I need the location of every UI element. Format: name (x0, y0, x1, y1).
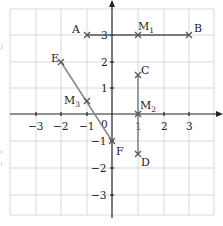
svg-text:−1: −1 (79, 120, 94, 132)
y-axis-arrow-icon (109, 0, 115, 7)
point-labels: A M1 B C M2 D E M3 F (51, 20, 202, 169)
label-m1: M1 (138, 20, 154, 35)
svg-text:2: 2 (161, 120, 168, 132)
svg-text:−3: −3 (28, 120, 43, 132)
svg-text:1: 1 (101, 82, 108, 94)
svg-text:3: 3 (186, 120, 193, 132)
edge-artifacts (1, 44, 3, 166)
point-markers (58, 32, 192, 157)
label-f: F (116, 145, 124, 158)
coordinate-plane: −3 −2 −1 0 1 2 3 3 2 1 −1 −2 −3 A M1 B C (0, 0, 223, 226)
label-b: B (194, 22, 202, 35)
svg-text:−3: −3 (91, 189, 106, 201)
svg-text:−2: −2 (53, 120, 68, 132)
x-axis-arrow-icon (216, 111, 223, 117)
svg-text:−1: −1 (91, 135, 106, 147)
label-m2: M2 (140, 99, 156, 114)
label-d: D (141, 156, 150, 169)
label-a: A (71, 23, 81, 36)
y-tick-labels: 3 2 1 −1 −2 −3 (91, 29, 108, 201)
x-tick-labels: −3 −2 −1 0 1 2 3 (28, 118, 193, 132)
segments (61, 35, 189, 154)
label-c: C (141, 64, 149, 77)
label-m3: M3 (64, 94, 80, 109)
svg-text:−2: −2 (91, 162, 106, 174)
svg-text:2: 2 (101, 56, 108, 68)
label-e: E (51, 52, 59, 65)
